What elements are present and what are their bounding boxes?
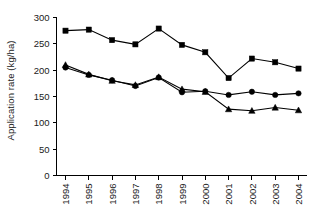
y-tick-mark-group <box>53 18 57 176</box>
data-point-circle <box>296 91 301 96</box>
data-point-circle <box>249 89 254 94</box>
data-point-square <box>296 66 301 71</box>
y-tick-label: 100 <box>34 117 50 128</box>
x-tick-label: 1995 <box>83 184 94 205</box>
y-tick-label: 250 <box>34 38 50 49</box>
y-tick-label-group: 050100150200250300 <box>34 12 50 181</box>
series-line <box>66 29 299 79</box>
plot-area: 050100150200250300 199419951996199719981… <box>0 0 312 218</box>
y-tick-label: 50 <box>39 144 50 155</box>
chart-container: Application rate (kg/ha) 050100150200250… <box>0 0 312 218</box>
x-tick-label: 1999 <box>177 184 188 205</box>
series-triangle <box>62 62 301 114</box>
data-point-square <box>156 26 161 31</box>
series-circle <box>63 65 301 98</box>
data-point-square <box>133 42 138 47</box>
data-point-circle <box>273 92 278 97</box>
series-square <box>63 26 301 81</box>
data-point-square <box>63 28 68 33</box>
data-point-circle <box>226 92 231 97</box>
x-tick-label: 2000 <box>200 184 211 205</box>
x-tick-label: 1998 <box>153 184 164 205</box>
x-tick-label-group: 1994199519961997199819992000200120022003… <box>60 184 304 205</box>
x-tick-label: 2002 <box>247 184 258 205</box>
data-point-square <box>226 75 231 80</box>
data-point-square <box>273 60 278 65</box>
x-tick-label: 1997 <box>130 184 141 205</box>
data-point-square <box>249 56 254 61</box>
x-tick-label: 1994 <box>60 184 71 205</box>
y-tick-label: 200 <box>34 65 50 76</box>
x-tick-label: 2001 <box>223 184 234 205</box>
x-tick-mark-group <box>66 176 299 180</box>
y-tick-label: 150 <box>34 91 50 102</box>
data-point-triangle <box>62 62 68 68</box>
y-tick-label: 300 <box>34 12 50 23</box>
x-tick-label: 2003 <box>270 184 281 205</box>
y-tick-label: 0 <box>44 170 49 181</box>
data-point-square <box>110 38 115 43</box>
data-point-square <box>203 50 208 55</box>
series-layer <box>62 26 301 113</box>
x-tick-label: 1996 <box>107 184 118 205</box>
data-point-square <box>179 42 184 47</box>
x-tick-label: 2004 <box>293 184 304 205</box>
data-point-square <box>86 27 91 32</box>
